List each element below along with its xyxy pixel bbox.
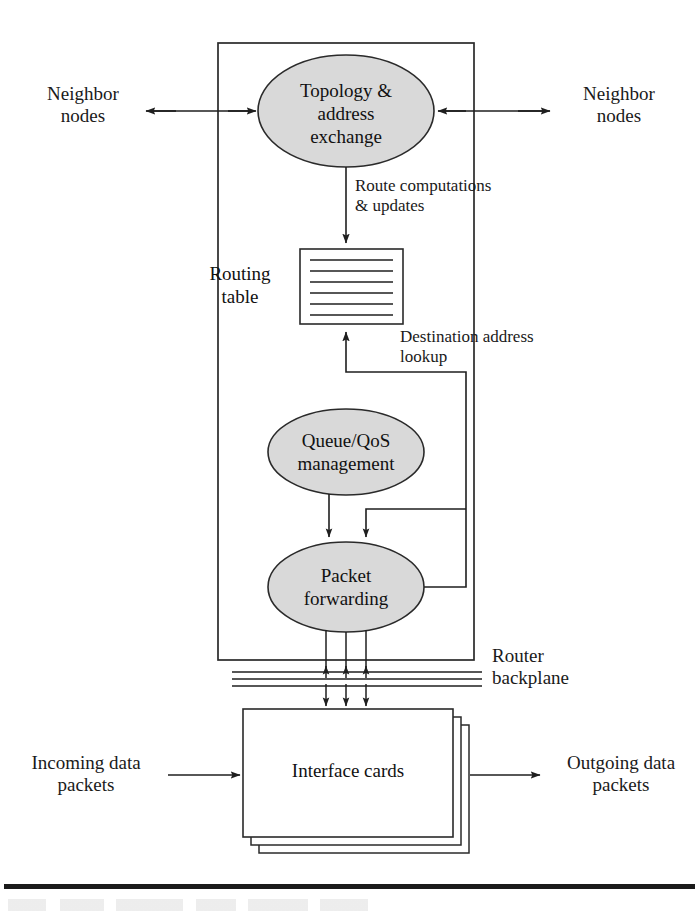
label-outgoing-data-packets: Outgoing data packets <box>545 752 697 796</box>
label-incoming-data-packets: Incoming data packets <box>10 752 162 796</box>
label-router-backplane: Router backplane <box>492 645 652 689</box>
label-neighbor-nodes-right: Neighbor nodes <box>556 83 682 127</box>
label-neighbor-nodes-left: Neighbor nodes <box>20 83 146 127</box>
caption-ghost-text <box>8 899 428 911</box>
edge-lookup-branch-to-forwarding <box>366 509 466 537</box>
router-backplane-lines <box>232 672 482 686</box>
node-interface-cards <box>243 709 453 837</box>
edge-label-destination-lookup: Destination address lookup <box>400 327 620 367</box>
node-topology-address-exchange <box>258 55 434 167</box>
page-bottom-rule <box>4 884 695 889</box>
node-packet-forwarding <box>268 542 424 632</box>
figure-canvas: Topology & address exchange Routing tabl… <box>0 0 699 915</box>
node-queue-qos-management <box>268 409 424 495</box>
edge-label-route-computations: Route computations & updates <box>355 176 555 216</box>
backplane-rails-down-arrows <box>326 684 366 706</box>
backplane-rails <box>326 630 366 668</box>
